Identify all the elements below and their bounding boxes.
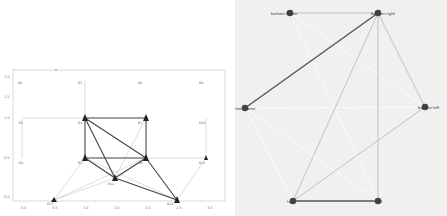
svg-text:B14: B14 [167, 202, 173, 206]
svg-text:bottom-frame: bottom-frame [271, 11, 298, 16]
svg-text:0.0: 0.0 [4, 195, 10, 199]
svg-text:B9: B9 [199, 81, 203, 85]
svg-text:top: top [287, 199, 294, 204]
svg-text:1.0: 1.0 [83, 206, 89, 210]
svg-text:B0: B0 [18, 81, 22, 85]
svg-text:B2: B2 [19, 161, 23, 165]
svg-text:B13: B13 [47, 202, 53, 206]
x-axis-ticks: 0.0 0.5 1.0 1.5 2.0 2.5 3.0 [21, 206, 213, 210]
svg-text:2.0: 2.0 [145, 206, 151, 210]
svg-text:B4: B4 [78, 121, 82, 125]
svg-text:bottom-frame: bottom-frame [235, 106, 256, 111]
svg-text:1.5: 1.5 [114, 206, 120, 210]
network-graph-panel: bottom-frame bottom-right bottom-frame b… [235, 0, 447, 216]
svg-text:1.5: 1.5 [4, 95, 10, 99]
svg-text:3.0: 3.0 [207, 206, 213, 210]
svg-text:B1: B1 [19, 121, 23, 125]
grid-graph-plot: 2.0 1.5 1.0 0.5 0.0 0.0 0.5 1.0 1.5 2.0 … [0, 0, 232, 216]
svg-text:0.5: 0.5 [4, 156, 10, 160]
svg-text:2.0: 2.0 [4, 75, 10, 79]
svg-text:bottom-left: bottom-left [418, 105, 440, 110]
svg-text:B8: B8 [138, 161, 142, 165]
network-graph-svg: bottom-frame bottom-right bottom-frame b… [235, 0, 447, 216]
svg-text:B11: B11 [199, 161, 205, 165]
svg-text:B7: B7 [138, 121, 142, 125]
svg-text:B10: B10 [199, 121, 205, 125]
svg-text:1.0: 1.0 [4, 116, 10, 120]
svg-text:B12: B12 [108, 182, 114, 186]
svg-text:B6: B6 [138, 81, 142, 85]
svg-text:2.5: 2.5 [176, 206, 182, 210]
svg-text:0.5: 0.5 [52, 206, 58, 210]
svg-text:B3: B3 [78, 81, 82, 85]
svg-text:bottom-right: bottom-right [371, 11, 396, 16]
y-axis-ticks: 2.0 1.5 1.0 0.5 0.0 [4, 75, 10, 199]
grid-graph-svg: 2.0 1.5 1.0 0.5 0.0 0.0 0.5 1.0 1.5 2.0 … [0, 0, 232, 216]
svg-text:left: left [376, 199, 383, 204]
svg-text:0.0: 0.0 [21, 206, 27, 210]
faint-edges [245, 13, 425, 201]
plot-frame [13, 70, 225, 201]
svg-text:B5: B5 [78, 161, 82, 165]
